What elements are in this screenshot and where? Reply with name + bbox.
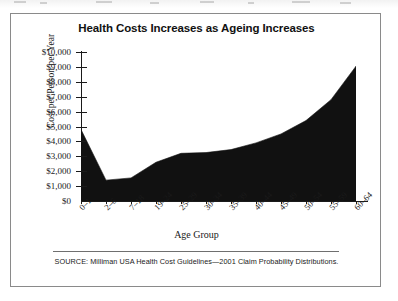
figure-frame: Health Costs Increases as Ageing Increas…: [10, 13, 381, 287]
y-axis-tick: [76, 156, 87, 157]
y-axis-tick-label: $10,000: [42, 47, 71, 57]
y-axis-tick-label: $3,000: [46, 151, 71, 161]
plot-area: 0–12–67–1819–2425–2930–3435–3940–4445–49…: [81, 52, 356, 201]
y-axis-tick-label: $0: [62, 196, 71, 206]
y-axis-tick-label: $6,000: [46, 107, 71, 117]
chart-title: Health Costs Increases as Ageing Increas…: [11, 22, 382, 34]
y-axis-tick: [76, 127, 87, 128]
y-axis-tick-label: $7,000: [46, 92, 71, 102]
y-axis-tick-label: $5,000: [46, 122, 71, 132]
x-axis-title: Age Group: [11, 229, 382, 240]
y-axis-tick: [76, 67, 87, 68]
y-axis-tick: [76, 171, 87, 172]
y-axis-tick-label: $9,000: [46, 62, 71, 72]
x-axis-line: [81, 201, 368, 202]
y-axis-tick: [76, 112, 87, 113]
y-axis-tick-label: $1,000: [46, 181, 71, 191]
y-axis-tick: [76, 82, 87, 83]
y-axis-tick-label: $4,000: [46, 136, 71, 146]
y-axis-tick-label: $8,000: [46, 77, 71, 87]
y-axis-tick-label: $2,000: [46, 166, 71, 176]
source-note: SOURCE: Milliman USA Health Cost Guideli…: [31, 257, 362, 266]
y-axis-tick: [76, 52, 87, 53]
area-series: [81, 52, 356, 201]
y-axis-tick: [76, 97, 87, 98]
source-divider: [53, 251, 339, 252]
y-axis-tick: [76, 186, 87, 187]
scan-artifact-strip: [0, 0, 398, 8]
y-axis-tick: [76, 141, 87, 142]
y-axis-tick-labels: $0$1,000$2,000$3,000$4,000$5,000$6,000$7…: [9, 52, 71, 201]
